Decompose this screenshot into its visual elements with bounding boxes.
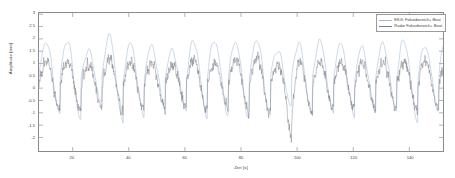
y-tick-label: 3 — [1, 11, 35, 15]
x-tick-label: 140 — [407, 156, 414, 160]
legend-item[interactable]: Radar Fokusbereich+ Beat — [379, 23, 442, 29]
legend-label: Radar Fokusbereich+ Beat — [394, 24, 442, 28]
x-tick-label: 60 — [182, 156, 187, 160]
legend[interactable]: EKG: Fokusbereich+ BeatRadar Fokusbereic… — [376, 14, 446, 32]
y-tick-label: 1.5 — [1, 49, 35, 53]
y-tick-label: 0 — [1, 86, 35, 90]
series-ekg-line — [39, 33, 443, 123]
y-tick-label: 0.5 — [1, 74, 35, 78]
y-tick-label: 1 — [1, 61, 35, 65]
plot-svg — [39, 13, 443, 151]
y-tick-label: -0.5 — [1, 99, 35, 103]
y-axis-tick-labels: 32.521.510.50-0.5-1-1.5-2 — [0, 12, 35, 152]
y-tick-label: -1.5 — [1, 124, 35, 128]
y-tick-label: -1 — [1, 111, 35, 115]
x-axis-tick-labels: 20406080100120140 — [38, 156, 444, 164]
x-tick-label: 80 — [239, 156, 244, 160]
y-tick-label: -2 — [1, 136, 35, 140]
x-tick-label: 40 — [126, 156, 131, 160]
x-axis-label: Zeit [s] — [38, 165, 444, 170]
plot-area — [38, 12, 444, 152]
legend-color-swatch — [379, 26, 392, 27]
x-tick-label: 100 — [294, 156, 301, 160]
figure-canvas: Amplitude [mm] 32.521.510.50-0.5-1-1.5-2… — [0, 0, 455, 178]
x-tick-label: 120 — [350, 156, 357, 160]
y-tick-label: 2 — [1, 36, 35, 40]
legend-label: EKG: Fokusbereich+ Beat — [394, 18, 440, 22]
x-tick-label: 20 — [70, 156, 75, 160]
y-tick-label: 2.5 — [1, 24, 35, 28]
legend-color-swatch — [379, 20, 392, 21]
